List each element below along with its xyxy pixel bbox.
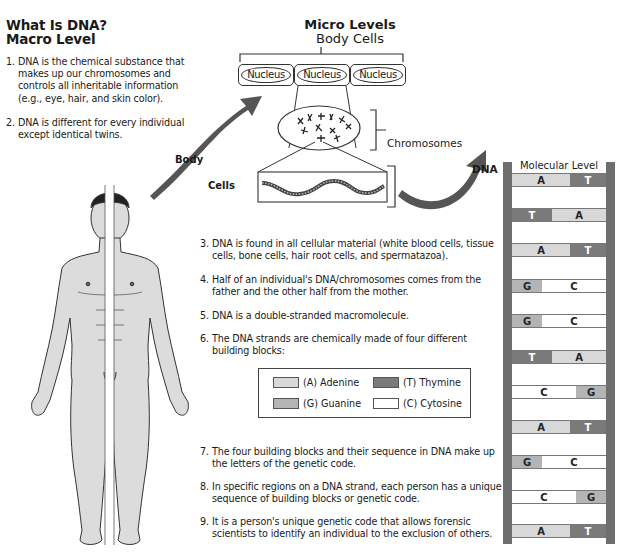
base-a: A (552, 209, 606, 221)
base-t: T (570, 244, 606, 256)
point-9: 9. It is a person's unique genetic code … (200, 516, 492, 540)
base-pair-rung: TA (512, 208, 606, 222)
legend-guanine: (G) Guanine (273, 398, 361, 409)
base-t: T (512, 351, 552, 363)
base-a: A (512, 244, 570, 256)
cell-3: Nucleus (350, 64, 406, 86)
base-t: T (570, 421, 606, 433)
nucleus-3: Nucleus (353, 67, 403, 83)
cell-1: Nucleus (238, 64, 294, 86)
base-pair-rung: AT (512, 173, 606, 187)
nucleus-2: Nucleus (297, 67, 347, 83)
legend-cytosine: (C) Cytosine (373, 398, 462, 409)
point-5: 5. DNA is a double-stranded macromolecul… (200, 310, 409, 322)
base-t: T (512, 209, 552, 221)
base-g: G (576, 386, 606, 398)
swatch-cytosine (373, 398, 399, 409)
base-c: C (542, 280, 606, 292)
base-t: T (570, 525, 606, 537)
swatch-adenine (273, 377, 299, 388)
base-a: A (512, 174, 570, 186)
dna-label: DNA (472, 163, 498, 175)
base-pair-rung: CG (512, 490, 606, 504)
base-c: C (542, 315, 606, 327)
base-pair-rung: GC (512, 314, 606, 328)
cells-label: Cells (208, 180, 235, 191)
point-8: 8. In specific regions on a DNA strand, … (200, 481, 501, 505)
body-label: Body (175, 154, 203, 165)
base-pair-rung: TA (512, 350, 606, 364)
base-pair-rung: GC (512, 455, 606, 469)
cell-2: Nucleus (294, 64, 350, 86)
base-c: C (512, 386, 576, 398)
base-a: A (552, 351, 606, 363)
base-c: C (512, 491, 576, 503)
base-pair-rung: GC (512, 279, 606, 293)
base-g: G (576, 491, 606, 503)
body-cells-row: Nucleus Nucleus Nucleus (238, 64, 406, 86)
point-4: 4. Half of an individual's DNA/chromosom… (200, 274, 481, 298)
molecular-title: Molecular Level (512, 160, 606, 171)
chromosomes-label: Chromosomes (387, 137, 462, 149)
point-3: 3. DNA is found in all cellular material… (200, 238, 494, 262)
legend-adenine: (A) Adenine (273, 377, 359, 388)
base-pair-rung: AT (512, 243, 606, 257)
point-7: 7. The four building blocks and their se… (200, 446, 495, 470)
base-g: G (512, 456, 542, 468)
legend-thymine: (T) Thymine (373, 377, 461, 388)
base-a: A (512, 525, 570, 537)
base-a: A (512, 421, 570, 433)
base-g: G (512, 280, 542, 292)
swatch-thymine (373, 377, 399, 388)
base-pair-rung: AT (512, 524, 606, 538)
base-t: T (570, 174, 606, 186)
swatch-guanine (273, 398, 299, 409)
base-pair-rung: AT (512, 420, 606, 434)
base-pair-rung: CG (512, 385, 606, 399)
nucleus-1: Nucleus (241, 67, 291, 83)
base-g: G (512, 315, 542, 327)
base-c: C (542, 456, 606, 468)
legend: (A) Adenine (T) Thymine (G) Guanine (C) … (258, 368, 471, 418)
point-6: 6. The DNA strands are chemically made o… (200, 333, 467, 357)
